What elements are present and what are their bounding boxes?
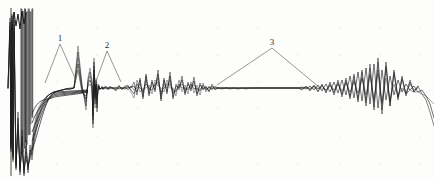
grid-dot [177, 107, 178, 108]
grid-dot [56, 27, 57, 28]
callout-label-1: 1 [58, 33, 63, 43]
grid-dot [379, 27, 380, 28]
grid-dot [419, 54, 420, 55]
grid-dot [217, 107, 218, 108]
grid-dot [217, 163, 218, 164]
grid-dot [339, 54, 340, 55]
grid-dot [339, 135, 340, 136]
grid-dot [177, 54, 178, 55]
grid-dot [257, 135, 258, 136]
grid-dot [137, 107, 138, 108]
grid-dot [297, 81, 298, 82]
grid-dot [419, 27, 420, 28]
grid-dot [137, 135, 138, 136]
signal-trace-figure: 123 [0, 0, 434, 181]
grid-dot [379, 163, 380, 164]
grid-dot [137, 163, 138, 164]
grid-dot [257, 107, 258, 108]
grid-dot [339, 163, 340, 164]
grid-dot [339, 81, 340, 82]
grid-dot [177, 163, 178, 164]
grid-dot [419, 107, 420, 108]
grid-dot [419, 163, 420, 164]
grid-dot [96, 81, 97, 82]
grid-dot [339, 27, 340, 28]
grid-dot [217, 27, 218, 28]
grid-dot [96, 27, 97, 28]
grid-dot [56, 81, 57, 82]
grid-dot [419, 81, 420, 82]
grid-dot [96, 163, 97, 164]
grid-dot [379, 107, 380, 108]
grid-dot [257, 27, 258, 28]
callout-label-3: 3 [270, 37, 275, 47]
grid-dot [137, 54, 138, 55]
grid-dot [56, 163, 57, 164]
grid-dot [96, 135, 97, 136]
grid-dot [379, 135, 380, 136]
grid-dot [137, 27, 138, 28]
grid-dot [297, 107, 298, 108]
grid-dot [297, 135, 298, 136]
grid-dot [379, 54, 380, 55]
callout-label-2: 2 [105, 40, 110, 50]
grid-dot [56, 107, 57, 108]
grid-dot [297, 54, 298, 55]
grid-dot [56, 135, 57, 136]
grid-dot [419, 135, 420, 136]
grid-dot [177, 27, 178, 28]
grid-dot [257, 54, 258, 55]
grid-dot [177, 135, 178, 136]
grid-dot [56, 54, 57, 55]
grid-dot [339, 107, 340, 108]
grid-dot [257, 163, 258, 164]
grid-dot [217, 135, 218, 136]
grid-dot [96, 54, 97, 55]
grid-dot [297, 27, 298, 28]
grid-dot [257, 81, 258, 82]
grid-dot [217, 54, 218, 55]
figure-canvas: 123 [0, 0, 434, 181]
grid-dot [297, 163, 298, 164]
grid-dot [217, 81, 218, 82]
